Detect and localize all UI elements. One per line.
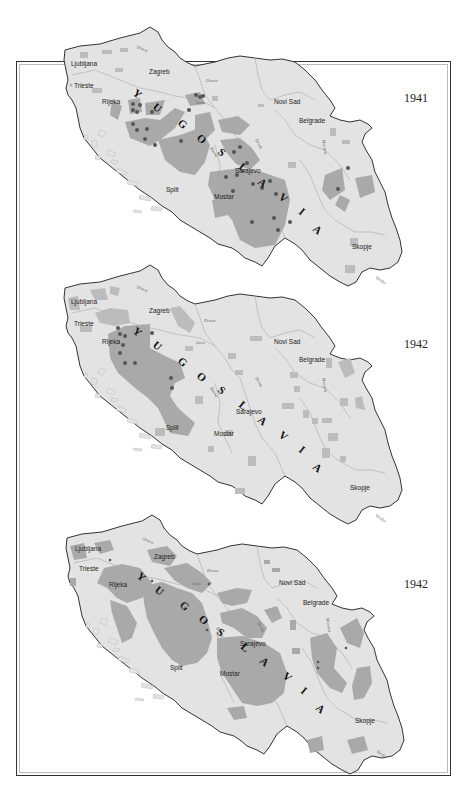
svg-text:Sava: Sava: [196, 100, 205, 105]
svg-text:Mostar: Mostar: [220, 670, 241, 677]
maps-canvas: Ljubljana Trieste Zagreb Rijeka Novi Sad…: [0, 0, 474, 805]
svg-text:Drava: Drava: [203, 318, 216, 323]
svg-text:Split: Split: [166, 424, 179, 432]
svg-text:Mostar: Mostar: [214, 430, 235, 437]
svg-text:Trieste: Trieste: [79, 565, 99, 572]
svg-text:Skopje: Skopje: [350, 484, 370, 492]
svg-text:Novi Sad: Novi Sad: [279, 579, 306, 586]
svg-text:Drava: Drava: [205, 78, 218, 83]
svg-text:Vardar: Vardar: [374, 275, 387, 286]
map-1942-a: Ljubljana Trieste Zagreb Rijeka Novi Sad…: [64, 265, 402, 524]
svg-text:Sava: Sava: [192, 581, 201, 586]
svg-text:Trieste: Trieste: [74, 320, 94, 327]
svg-text:Novi Sad: Novi Sad: [274, 338, 301, 345]
city-novi-sad: Novi Sad: [274, 98, 301, 105]
svg-text:Belgrade: Belgrade: [299, 356, 325, 364]
city-ljubljana: Ljubljana: [71, 60, 97, 68]
map-1941: Ljubljana Trieste Zagreb Rijeka Novi Sad…: [64, 27, 402, 286]
city-skopje: Skopje: [352, 243, 372, 251]
city-belgrade: Belgrade: [299, 117, 325, 125]
svg-text:Zagreb: Zagreb: [154, 553, 175, 561]
city-rijeka: Rijeka: [102, 98, 120, 106]
svg-text:Zagreb: Zagreb: [149, 307, 170, 315]
svg-text:Vardar: Vardar: [374, 513, 387, 524]
svg-text:Ljubljana: Ljubljana: [71, 298, 97, 306]
city-trieste: Trieste: [74, 82, 94, 89]
svg-text:Drava: Drava: [206, 568, 219, 573]
city-zagreb: Zagreb: [149, 68, 170, 76]
svg-text:Split: Split: [170, 664, 183, 672]
city-split: Split: [166, 186, 179, 194]
svg-text:Ljubljana: Ljubljana: [75, 545, 101, 553]
svg-text:Skopje: Skopje: [355, 717, 375, 725]
svg-text:Belgrade: Belgrade: [303, 599, 329, 607]
svg-text:Rijeka: Rijeka: [109, 581, 127, 589]
svg-text:Rijeka: Rijeka: [102, 338, 120, 346]
map-1942-b: Ljubljana Trieste Zagreb Rijeka Novi Sad…: [66, 515, 404, 774]
svg-text:Sava: Sava: [196, 340, 205, 345]
city-mostar: Mostar: [214, 193, 235, 200]
